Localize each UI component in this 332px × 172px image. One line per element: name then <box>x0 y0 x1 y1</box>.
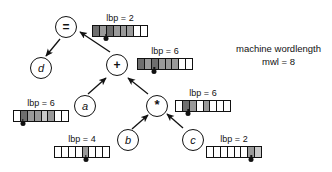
word-star-bits <box>175 100 231 112</box>
bit-cell-5 <box>241 147 248 157</box>
tree-node-label: * <box>154 98 159 111</box>
tree-node-label: a <box>82 101 88 112</box>
edge-b-to-star <box>132 115 148 129</box>
word-plus-lbp-label: lbp = 6 <box>137 46 193 57</box>
word-star: lbp = 6 <box>175 88 231 119</box>
bit-cell-5 <box>210 101 217 111</box>
tree-node-a: a <box>74 95 96 117</box>
bit-cell-3 <box>197 101 204 111</box>
marker-dot <box>83 157 88 162</box>
bit-cell-7 <box>255 147 261 157</box>
bit-cell-0 <box>55 147 62 157</box>
bit-cell-2 <box>221 147 228 157</box>
bit-cell-7 <box>62 111 68 121</box>
word-eq: lbp = 2 <box>92 13 148 44</box>
edge-eq-to-d <box>46 39 60 56</box>
machine-wordlength-value: mwl = 8 <box>236 55 321 68</box>
bit-cell-4 <box>121 26 128 36</box>
word-plus-bits <box>137 58 193 70</box>
bit-cell-2 <box>190 101 197 111</box>
marker-dot <box>20 121 25 126</box>
bit-cell-6 <box>55 111 62 121</box>
tree-node-c: c <box>182 129 204 151</box>
tree-node-star: * <box>146 95 168 117</box>
bit-cell-4 <box>235 147 242 157</box>
bit-cell-0 <box>207 147 214 157</box>
bit-cell-7 <box>141 26 147 36</box>
marker-dot <box>152 69 157 74</box>
bit-cell-7 <box>186 59 192 69</box>
word-b-bits <box>54 146 110 158</box>
bit-cell-2 <box>107 26 114 36</box>
bit-cell-2 <box>28 111 35 121</box>
word-a-binary-point-marker <box>13 122 69 129</box>
word-star-lbp-label: lbp = 6 <box>175 88 231 99</box>
expression-tree-figure: =d+a*bc lbp = 2lbp = 6lbp = 6lbp = 6lbp … <box>0 0 332 172</box>
bit-cell-0 <box>176 101 183 111</box>
word-eq-bits <box>92 25 148 37</box>
tree-node-label: b <box>125 135 131 146</box>
tree-node-plus: + <box>106 54 128 76</box>
word-eq-binary-point-marker <box>92 37 148 44</box>
marker-dot <box>186 111 191 116</box>
tree-node-label: d <box>38 63 44 74</box>
word-plus: lbp = 6 <box>137 46 193 77</box>
bit-cell-7 <box>103 147 109 157</box>
bit-cell-5 <box>89 147 96 157</box>
word-b-lbp-label: lbp = 4 <box>54 134 110 145</box>
bit-cell-6 <box>179 59 186 69</box>
word-c-binary-point-marker <box>206 158 262 165</box>
tree-edges-layer <box>0 0 332 172</box>
word-star-binary-point-marker <box>175 112 231 119</box>
word-plus-binary-point-marker <box>137 70 193 77</box>
bit-cell-2 <box>69 147 76 157</box>
bit-cell-6 <box>134 26 141 36</box>
bit-cell-4 <box>204 101 211 111</box>
bit-cell-0 <box>138 59 145 69</box>
bit-cell-6 <box>96 147 103 157</box>
bit-cell-3 <box>159 59 166 69</box>
marker-dot <box>249 157 254 162</box>
word-eq-lbp-label: lbp = 2 <box>92 13 148 24</box>
word-c-lbp-label: lbp = 2 <box>206 134 262 145</box>
marker-dot <box>104 36 109 41</box>
bit-cell-5 <box>172 59 179 69</box>
bit-cell-1 <box>214 147 221 157</box>
word-a: lbp = 6 <box>13 98 69 129</box>
word-b-binary-point-marker <box>54 158 110 165</box>
tree-node-d: d <box>30 57 52 79</box>
tree-node-label: = <box>62 21 69 33</box>
bit-cell-5 <box>127 26 134 36</box>
bit-cell-1 <box>62 147 69 157</box>
bit-cell-5 <box>48 111 55 121</box>
edge-star-to-plus <box>128 78 148 94</box>
bit-cell-7 <box>224 101 230 111</box>
bit-cell-6 <box>217 101 224 111</box>
tree-node-eq: = <box>55 16 77 38</box>
tree-node-label: + <box>113 59 120 71</box>
word-a-lbp-label: lbp = 6 <box>13 98 69 109</box>
bit-cell-4 <box>42 111 49 121</box>
bit-cell-3 <box>228 147 235 157</box>
machine-wordlength-note: machine wordlength mwl = 8 <box>236 42 321 68</box>
word-c-bits <box>206 146 262 158</box>
bit-cell-1 <box>145 59 152 69</box>
machine-wordlength-label: machine wordlength <box>236 42 321 55</box>
word-b: lbp = 4 <box>54 134 110 165</box>
bit-cell-3 <box>76 147 83 157</box>
bit-cell-0 <box>93 26 100 36</box>
bit-cell-4 <box>166 59 173 69</box>
bit-cell-3 <box>35 111 42 121</box>
tree-node-label: c <box>190 135 196 146</box>
bit-cell-3 <box>114 26 121 36</box>
tree-node-b: b <box>117 129 139 151</box>
bit-cell-0 <box>14 111 21 121</box>
word-c: lbp = 2 <box>206 134 262 165</box>
edge-a-to-plus <box>88 78 106 94</box>
